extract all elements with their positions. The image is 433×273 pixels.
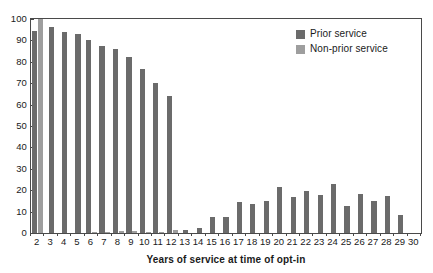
x-axis-tick-label: 16 <box>220 236 231 248</box>
x-axis-tick-label: 11 <box>153 236 163 248</box>
legend-item: Non-prior service <box>296 42 416 56</box>
bar-prior-service <box>344 206 349 233</box>
y-axis-tick-label: 40 <box>16 143 27 153</box>
bar-prior-service <box>223 217 228 233</box>
bar-chart-figure: 0102030405060708090100 23456789101112131… <box>0 0 433 273</box>
x-axis-tick-label: 20 <box>273 236 284 248</box>
x-axis-tick-label: 7 <box>101 236 106 248</box>
bar-prior-service <box>113 49 118 233</box>
bar-prior-service <box>264 201 269 233</box>
bar-prior-service <box>32 31 37 233</box>
y-axis-tick-label: 50 <box>16 121 27 131</box>
bar-prior-service <box>140 69 145 233</box>
y-axis-tick-label: 10 <box>16 207 27 217</box>
legend-item-label: Non-prior service <box>310 44 388 54</box>
bar-prior-service <box>126 57 131 233</box>
x-axis-tick-label: 3 <box>47 236 52 248</box>
legend-swatch-icon <box>296 30 305 39</box>
x-axis-tick-label: 22 <box>300 236 311 248</box>
bar-prior-service <box>385 196 390 233</box>
bar-prior-service <box>49 27 54 233</box>
bar-prior-service <box>250 204 255 233</box>
bar-prior-service <box>291 197 296 233</box>
x-axis-tick-label: 27 <box>368 236 379 248</box>
x-axis-tick-label: 26 <box>354 236 365 248</box>
x-axis-tick-label: 18 <box>247 236 258 248</box>
legend-swatch-icon <box>296 45 305 54</box>
x-axis-tick-label: 8 <box>115 236 120 248</box>
bar-prior-service <box>398 215 403 233</box>
x-axis-tick-label: 13 <box>179 236 190 248</box>
x-axis-tick-label: 10 <box>139 236 150 248</box>
bar-prior-service <box>304 191 309 233</box>
bar-prior-service <box>210 217 215 233</box>
bar-prior-service <box>75 34 80 233</box>
bar-prior-service <box>99 46 104 233</box>
legend-item-label: Prior service <box>310 29 367 39</box>
x-axis-tick-label: 5 <box>74 236 79 248</box>
x-axis-tick-label: 6 <box>88 236 93 248</box>
y-axis-tick-label: 80 <box>16 57 27 67</box>
x-axis-tick-label: 9 <box>128 236 133 248</box>
x-axis-tick-label: 19 <box>260 236 271 248</box>
bar-prior-service <box>277 187 282 233</box>
y-axis-tick-label: 100 <box>11 14 27 24</box>
x-axis-tick-labels: 2345678910111213141516171819202122232425… <box>30 236 422 250</box>
x-axis-tick-label: 17 <box>233 236 244 248</box>
y-axis-tick-label: 90 <box>16 36 27 46</box>
x-axis-tick-label: 15 <box>206 236 217 248</box>
x-axis-tick-label: 29 <box>394 236 405 248</box>
chart-legend: Prior serviceNon-prior service <box>296 27 416 57</box>
x-axis-tick-label: 14 <box>193 236 204 248</box>
x-axis-tick-label: 23 <box>314 236 325 248</box>
x-axis-tick-label: 2 <box>34 236 39 248</box>
x-axis-tick-label: 28 <box>381 236 392 248</box>
bar-prior-service <box>371 201 376 233</box>
bar-prior-service <box>237 202 242 233</box>
bar-prior-service <box>318 195 323 233</box>
x-axis-title: Years of service at time of opt-in <box>30 254 422 265</box>
x-axis-tick-label: 24 <box>327 236 338 248</box>
bar-prior-service <box>62 32 67 233</box>
bar-prior-service <box>358 194 363 233</box>
y-axis-tick-label: 0 <box>22 228 27 238</box>
bar-non-prior-service <box>38 19 43 233</box>
y-axis-tick-label: 20 <box>16 185 27 195</box>
y-axis-tick-label: 60 <box>16 100 27 110</box>
bar-prior-service <box>86 40 91 233</box>
bar-prior-service <box>331 184 336 233</box>
x-axis-tick-label: 21 <box>287 236 298 248</box>
bar-prior-service <box>167 96 172 233</box>
x-axis-tick-label: 25 <box>341 236 352 248</box>
x-axis-tick-label: 4 <box>61 236 66 248</box>
y-axis-tick-label: 70 <box>16 78 27 88</box>
y-axis-tick-label: 30 <box>16 164 27 174</box>
legend-item: Prior service <box>296 27 416 41</box>
bar-prior-service <box>153 83 158 233</box>
x-axis-tick-label: 30 <box>408 236 419 248</box>
x-axis-tick-label: 12 <box>166 236 177 248</box>
y-axis-tick-labels: 0102030405060708090100 <box>0 18 27 234</box>
